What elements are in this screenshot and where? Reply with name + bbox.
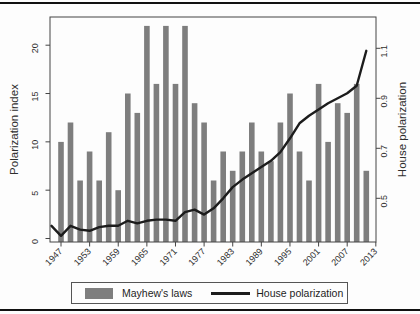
bar-2009 xyxy=(354,84,360,242)
bar-1983 xyxy=(230,171,236,242)
bar-1997 xyxy=(297,152,303,243)
bar-1967 xyxy=(154,84,160,242)
y-left-tick-label: 15 xyxy=(30,92,40,102)
y-left-tick-label: 20 xyxy=(30,43,40,53)
bar-1947 xyxy=(58,142,64,242)
legend-line-sample xyxy=(211,292,250,295)
bar-2007 xyxy=(344,113,350,242)
bar-1991 xyxy=(268,161,274,242)
bar-1951 xyxy=(77,181,83,243)
x-tick-label: 1959 xyxy=(100,246,121,267)
x-tick-label: 2001 xyxy=(301,246,322,267)
y-right-tick-label: 0.7 xyxy=(379,145,389,158)
x-tick-label: 1995 xyxy=(272,246,293,267)
x-tick-label: 1953 xyxy=(72,246,93,267)
legend: Mayhew's laws House polarization xyxy=(71,282,348,304)
bar-1965 xyxy=(144,26,150,242)
bar-1969 xyxy=(163,26,169,242)
bar-1977 xyxy=(201,123,207,243)
x-tick-label: 1977 xyxy=(186,246,207,267)
y-left-tick-label: 10 xyxy=(30,140,40,150)
x-tick-label: 1947 xyxy=(43,246,64,267)
legend-line-label: House polarization xyxy=(256,287,343,299)
bar-1987 xyxy=(249,123,255,243)
y-left-axis-title: Polarization index xyxy=(8,84,20,175)
x-tick-label: 1983 xyxy=(215,246,236,267)
bar-1999 xyxy=(306,181,312,243)
x-tick-label: 2013 xyxy=(358,246,379,267)
x-tick-label: 1971 xyxy=(158,246,179,267)
bar-1995 xyxy=(287,94,293,243)
x-tick-label: 1989 xyxy=(244,246,265,267)
x-tick-label: 2007 xyxy=(329,246,350,267)
x-tick-label: 1965 xyxy=(129,246,150,267)
y-left-tick-label: 0 xyxy=(30,239,40,244)
bar-2011 xyxy=(364,171,370,242)
bar-1973 xyxy=(182,26,188,242)
bar-1975 xyxy=(192,103,198,242)
legend-bar-swatch xyxy=(85,288,113,299)
bar-1955 xyxy=(96,181,102,243)
bar-1949 xyxy=(68,123,74,243)
bar-1959 xyxy=(115,190,121,242)
y-right-tick-label: 0.9 xyxy=(379,95,389,108)
bar-1953 xyxy=(87,152,93,243)
y-right-tick-label: 0.5 xyxy=(379,195,389,208)
figure: 051015200.50.70.91.119471953195919651971… xyxy=(0,0,420,314)
y-right-axis-title: House polarization xyxy=(396,82,408,177)
bar-1979 xyxy=(211,181,217,243)
bar-1993 xyxy=(278,123,284,243)
y-right-tick-label: 1.1 xyxy=(379,45,389,58)
chart-canvas: 051015200.50.70.91.119471953195919651971… xyxy=(0,0,420,314)
page-rule-bottom xyxy=(0,309,420,311)
bar-1985 xyxy=(240,152,246,243)
bar-2003 xyxy=(325,142,331,242)
y-left-tick-label: 5 xyxy=(30,191,40,196)
bar-2005 xyxy=(335,103,341,242)
legend-bar-label: Mayhew's laws xyxy=(122,287,192,299)
